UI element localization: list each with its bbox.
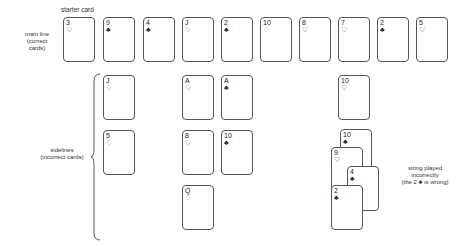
- diamond-icon: ♢: [263, 26, 269, 33]
- string-label-line3: (the 2 ♣ is wrong): [386, 179, 464, 186]
- main-line-card-5: 2 ♣: [221, 17, 253, 62]
- card-rank: J: [106, 77, 110, 84]
- club-icon: ♣: [343, 138, 348, 145]
- club-icon: ♣: [380, 26, 385, 33]
- card-rank: 8: [185, 132, 189, 139]
- sideline-card-a-heart: A ♡: [182, 75, 214, 120]
- club-icon: ♣: [350, 175, 355, 182]
- card-rank: J: [185, 19, 189, 26]
- card-rank: 2: [224, 19, 228, 26]
- club-icon: ♣: [334, 194, 339, 201]
- card-rank: 3: [66, 19, 70, 26]
- diamond-icon: ♢: [106, 139, 112, 146]
- sideline-card-10-club: 10 ♣: [221, 130, 253, 175]
- starter-card-label: starter card: [61, 6, 94, 13]
- heart-icon: ♡: [419, 26, 425, 33]
- main-line-label: main line (correct cards): [20, 31, 54, 52]
- string-label: string played incorrectly (the 2 ♣ is wr…: [386, 165, 464, 186]
- heart-icon: ♡: [185, 84, 191, 91]
- diamond-icon: ♢: [185, 194, 191, 201]
- card-rank: A: [224, 77, 229, 84]
- sideline-card-q-diamond: Q ♢: [182, 185, 214, 230]
- main-line-card-9: 2 ♣: [377, 17, 409, 62]
- sidelines-label-line2: (incorrect cards): [34, 154, 90, 161]
- club-icon: ♣: [146, 26, 151, 33]
- main-line-card-8: 7 ♡: [338, 17, 370, 62]
- main-line-label-line1: main line: [20, 31, 54, 38]
- club-icon: ♣: [106, 26, 111, 33]
- diamond-icon: ♢: [106, 84, 112, 91]
- heart-icon: ♡: [341, 84, 347, 91]
- heart-icon: ♡: [66, 26, 72, 33]
- main-line-card-3: 4 ♣: [143, 17, 175, 62]
- main-line-card-10: 5 ♡: [416, 17, 448, 62]
- main-line-card-1-starter: 3 ♡: [63, 17, 95, 62]
- card-rank: Q: [185, 187, 190, 194]
- string-card-2-club: 2 ♣: [331, 185, 363, 230]
- sideline-card-8-heart: 8 ♡: [182, 130, 214, 175]
- card-rank: 9: [334, 149, 338, 156]
- string-label-line2: incorrectly: [386, 172, 464, 179]
- main-line-card-4: J ♢: [182, 17, 214, 62]
- main-line-card-2: 9 ♣: [103, 17, 135, 62]
- sidelines-brace-icon: [90, 73, 102, 243]
- heart-icon: ♡: [334, 156, 340, 163]
- card-rank: 10: [224, 132, 232, 139]
- card-rank: 8: [302, 19, 306, 26]
- card-rank: A: [185, 77, 190, 84]
- card-rank: 10: [341, 77, 349, 84]
- card-rank: 10: [343, 131, 351, 138]
- card-rank: 2: [380, 19, 384, 26]
- card-rank: 2: [334, 187, 338, 194]
- main-line-card-7: 8 ♡: [299, 17, 331, 62]
- heart-icon: ♡: [185, 139, 191, 146]
- sidelines-label-line1: sidelines: [34, 147, 90, 154]
- card-rank: 4: [146, 19, 150, 26]
- card-rank: 5: [419, 19, 423, 26]
- heart-icon: ♡: [302, 26, 308, 33]
- club-icon: ♣: [224, 84, 229, 91]
- sideline-card-10-heart: 10 ♡: [338, 75, 370, 120]
- string-label-line1: string played: [386, 165, 464, 172]
- card-rank: 9: [106, 19, 110, 26]
- card-rank: 4: [350, 168, 354, 175]
- main-line-label-line2: (correct: [20, 38, 54, 45]
- card-rank: 5: [106, 132, 110, 139]
- card-rank: 10: [263, 19, 271, 26]
- sideline-card-j-diamond: J ♢: [103, 75, 135, 120]
- sideline-card-a-club: A ♣: [221, 75, 253, 120]
- club-icon: ♣: [224, 139, 229, 146]
- club-icon: ♣: [224, 26, 229, 33]
- main-line-card-6: 10 ♢: [260, 17, 292, 62]
- card-rank: 7: [341, 19, 345, 26]
- sideline-card-5-diamond: 5 ♢: [103, 130, 135, 175]
- diamond-icon: ♢: [185, 26, 191, 33]
- main-line-label-line3: cards): [20, 45, 54, 52]
- sidelines-label: sidelines (incorrect cards): [34, 147, 90, 161]
- heart-icon: ♡: [341, 26, 347, 33]
